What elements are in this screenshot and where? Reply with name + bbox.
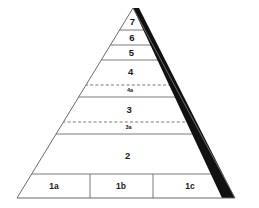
- base-cell-label-1a: 1a: [49, 181, 59, 191]
- tier-label-2: 2: [125, 150, 130, 161]
- pyramid-diagram: 76544a33a21a1b1c: [0, 0, 259, 208]
- tier-label-6: 6: [129, 32, 134, 43]
- tier-label-3: 3: [127, 104, 132, 115]
- base-cell-label-1c: 1c: [185, 181, 195, 191]
- pyramid-svg: 76544a33a21a1b1c: [0, 0, 259, 208]
- base-cell-label-1b: 1b: [116, 181, 126, 191]
- tier-label-5: 5: [129, 47, 135, 58]
- tier-label-7: 7: [130, 16, 135, 27]
- tier-label-4: 4: [128, 66, 134, 77]
- tier-label-3a: 3a: [126, 124, 133, 130]
- tier-label-4a: 4a: [127, 87, 134, 93]
